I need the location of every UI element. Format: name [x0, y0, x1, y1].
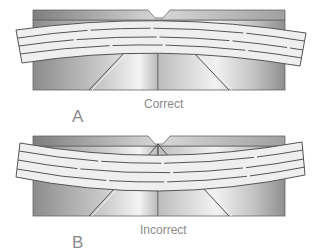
figure-b: Incorrect B — [16, 136, 305, 252]
caption-a: Correct — [144, 97, 184, 111]
caption-b: Incorrect — [140, 223, 187, 237]
letter-a: A — [72, 107, 84, 126]
figure-a: Correct A — [16, 10, 306, 126]
bending-diagram: Correct A Incorrect B — [0, 0, 314, 252]
letter-b: B — [72, 233, 83, 252]
